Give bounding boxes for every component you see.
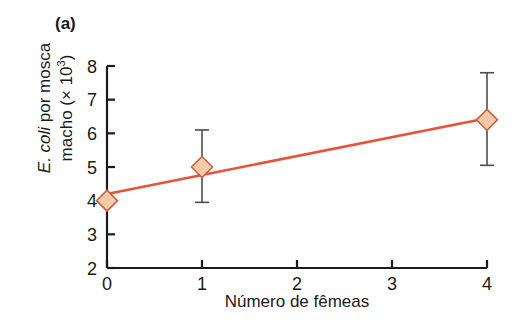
x-axis-ticks: 01234 [102, 260, 492, 294]
x-tick-label: 1 [197, 274, 207, 294]
plot-area: 2345678 01234 [0, 0, 530, 326]
error-bars [195, 73, 494, 203]
y-tick-label: 4 [87, 191, 97, 211]
y-tick-label: 6 [87, 124, 97, 144]
y-axis-ticks: 2345678 [87, 57, 115, 279]
figure-panel-a: (a) E. coli por mosca macho (× 103) Núme… [0, 0, 530, 326]
x-tick-label: 4 [482, 274, 492, 294]
x-tick-label: 0 [102, 274, 112, 294]
trend-line [107, 118, 487, 194]
regression-line [107, 118, 487, 194]
data-markers [97, 109, 498, 211]
y-tick-label: 3 [87, 225, 97, 245]
data-point-marker [477, 109, 498, 130]
y-tick-label: 7 [87, 90, 97, 110]
x-tick-label: 3 [387, 274, 397, 294]
x-tick-label: 2 [292, 274, 302, 294]
y-tick-label: 2 [87, 259, 97, 279]
y-tick-label: 5 [87, 158, 97, 178]
y-tick-label: 8 [87, 57, 97, 77]
axes [107, 66, 487, 268]
